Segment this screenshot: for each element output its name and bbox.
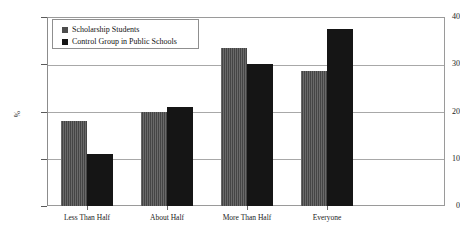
legend: Scholarship Students Control Group in Pu… [52,19,199,49]
legend-label-series-1: Control Group in Public Schools [72,37,177,46]
bar [301,71,327,206]
bar [61,121,87,206]
x-axis-tick [167,206,168,210]
x-axis-tick-label: About Half [122,213,212,222]
legend-label-series-0: Scholarship Students [72,25,139,34]
x-axis-tick [87,206,88,210]
legend-swatch-icon-series-0 [62,27,68,33]
y-axis-title: % [14,106,22,122]
x-axis-tick-label: Less Than Half [42,213,132,222]
y-axis-tick [41,206,47,207]
bar [167,107,193,206]
legend-item-control-group: Control Group in Public Schools [62,36,198,47]
x-axis-tick [327,206,328,210]
bar [327,29,353,206]
bar [141,112,167,207]
x-axis-tick-label: More Than Half [202,213,292,222]
bar-chart: 010203040 % Less Than HalfAbout HalfMore… [0,0,460,231]
bar [247,64,273,206]
x-axis-tick [247,206,248,210]
legend-item-scholarship-students: Scholarship Students [62,24,198,35]
bar [87,154,113,206]
legend-swatch-icon-series-1 [62,39,68,45]
bar [221,48,247,206]
x-axis-tick-label: Everyone [282,213,372,222]
